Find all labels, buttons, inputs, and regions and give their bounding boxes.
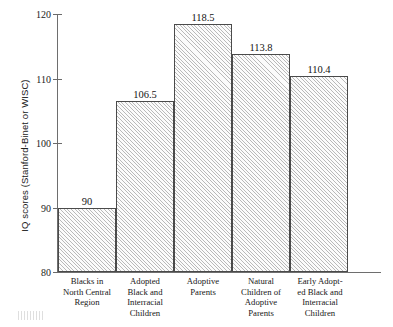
category-line: Children of [230,287,292,298]
category-line: Early Adopt- [288,276,352,287]
category-label-natural-children-of-adoptive-parents: Natural Children of Adoptive Parents [230,276,292,318]
bar-adopted-black-interracial-children[interactable]: 106.5 [116,101,174,272]
category-line: Region [56,297,118,308]
category-label-adopted-black-interracial-children: Adopted Black and Interracial Children [114,276,176,318]
plot-area: 80 90 100 110 120 90 106.5 118.5 11 [57,14,381,272]
bar-early-adopted-black-interracial-children[interactable]: 110.4 [290,76,348,272]
y-tick-label: 90 [41,202,51,213]
category-line: Interracial [288,297,352,308]
category-line: Adoptive [172,276,234,287]
y-tick-label: 110 [36,73,51,84]
bar-value-label: 110.4 [307,64,330,75]
category-line: Adopted [114,276,176,287]
category-label-adoptive-parents: Adoptive Parents [172,276,234,297]
category-line: Parents [172,287,234,298]
category-line: Interracial [114,297,176,308]
category-line: ed Black and [288,287,352,298]
y-axis-label: IQ scores (Stanford-Binet or WISC) [19,46,30,266]
y-tick-mark [53,14,62,15]
category-line: North Central [56,287,118,298]
scan-artifact [18,311,44,320]
y-tick-label: 100 [36,138,51,149]
category-label-blacks-north-central: Blacks in North Central Region [56,276,118,308]
y-tick-mark [53,79,62,80]
category-line: Parents [230,308,292,319]
y-tick-mark [53,143,62,144]
category-line: Children [114,308,176,319]
category-line: Blacks in [56,276,118,287]
category-line: Adoptive [230,297,292,308]
bar-chart: IQ scores (Stanford-Binet or WISC) 80 90… [0,0,393,327]
bar-value-label: 113.8 [249,42,272,53]
y-tick-label: 80 [41,267,51,278]
bar-blacks-north-central[interactable]: 90 [58,208,116,273]
bar-natural-children-of-adoptive-parents[interactable]: 113.8 [232,54,290,272]
y-tick-label: 120 [36,9,51,20]
bar-value-label: 118.5 [191,12,214,23]
category-line: Black and [114,287,176,298]
bar-adoptive-parents[interactable]: 118.5 [174,24,232,272]
category-line: Natural [230,276,292,287]
y-tick-mark [53,272,62,273]
bar-value-label: 106.5 [133,89,157,100]
bar-value-label: 90 [82,196,93,207]
category-line: Children [288,308,352,319]
category-label-early-adopted-black-interracial-children: Early Adopt- ed Black and Interracial Ch… [288,276,352,318]
x-axis-line [57,272,381,273]
